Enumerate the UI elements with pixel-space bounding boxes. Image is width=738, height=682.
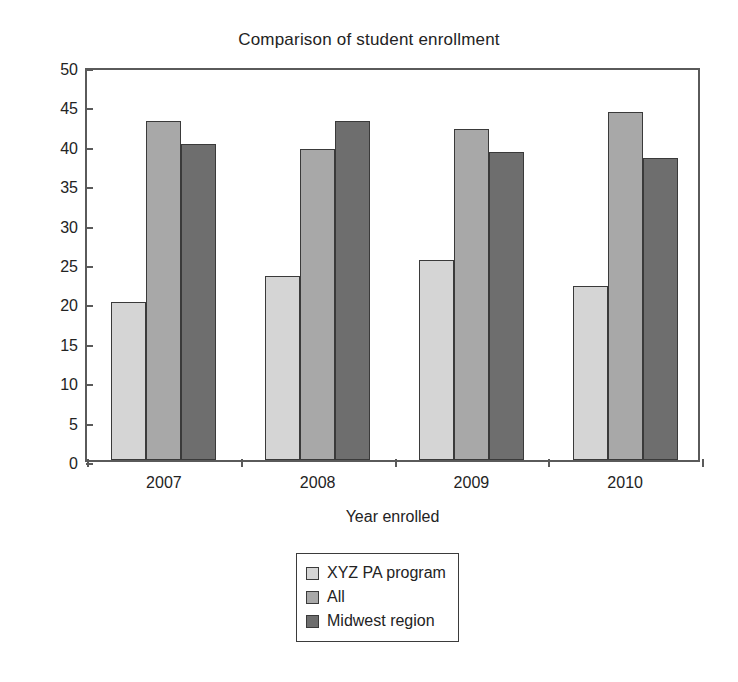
legend-label: All [327, 588, 345, 606]
y-tick-text: 10 [60, 376, 78, 393]
y-tick-mark [86, 266, 93, 268]
y-tick-text: 45 [60, 100, 78, 117]
bar-2007-xyz-pa-program [111, 302, 146, 460]
y-tick-mark [86, 345, 93, 347]
bar-2007-all [146, 121, 181, 460]
y-tick-mark [86, 227, 93, 229]
y-tick-text: 15 [60, 337, 78, 354]
y-tick-text: 20 [60, 297, 78, 314]
legend-item-midwest-region[interactable]: Midwest region [306, 609, 446, 633]
chart-title: Comparison of student enrollment [0, 30, 738, 50]
y-axis-tick-label: 20 [60, 297, 87, 315]
bar-group [111, 70, 216, 460]
bar-2008-all [300, 149, 335, 460]
y-axis-tick-label: 40 [60, 140, 87, 158]
x-axis-label: Year enrolled [85, 508, 700, 526]
x-axis-tick-label-2007: 2007 [146, 474, 182, 492]
y-axis-tick-label: 0 [69, 455, 87, 473]
y-axis-tick-label: 25 [60, 258, 87, 276]
legend-item-xyz-pa-program[interactable]: XYZ PA program [306, 561, 446, 585]
y-tick-text: 50 [60, 61, 78, 78]
y-tick-text: 30 [60, 219, 78, 236]
x-axis-tick-mark [87, 459, 89, 467]
bar-series-container [87, 70, 698, 460]
plot-area: 051015202530354045502007200820092010 [85, 68, 700, 462]
bar-group [419, 70, 524, 460]
y-tick-mark [86, 187, 93, 189]
y-tick-text: 35 [60, 179, 78, 196]
y-tick-text: 25 [60, 258, 78, 275]
x-axis-tick-mark [241, 459, 243, 467]
x-axis-tick-mark [702, 459, 704, 467]
legend-swatch-icon [306, 567, 319, 580]
y-tick-text: 40 [60, 140, 78, 157]
y-tick-mark [86, 384, 93, 386]
y-tick-mark [86, 148, 93, 150]
y-axis-tick-label: 35 [60, 179, 87, 197]
y-axis-tick-label: 45 [60, 100, 87, 118]
x-axis-tick-mark [548, 459, 550, 467]
y-tick-mark [86, 424, 93, 426]
y-axis-tick-label: 50 [60, 61, 87, 79]
legend-label: XYZ PA program [327, 564, 446, 582]
bar-2009-midwest-region [489, 152, 524, 460]
y-axis-tick-label: 10 [60, 376, 87, 394]
x-axis-tick-mark [395, 459, 397, 467]
legend-label: Midwest region [327, 612, 435, 630]
bar-2009-all [454, 129, 489, 460]
bar-2010-midwest-region [643, 158, 678, 460]
y-tick-text: 0 [69, 455, 78, 472]
y-axis-tick-label: 30 [60, 219, 87, 237]
bar-group [265, 70, 370, 460]
legend-swatch-icon [306, 591, 319, 604]
y-axis-tick-label: 5 [69, 416, 87, 434]
legend-swatch-icon [306, 615, 319, 628]
x-axis-tick-label-2009: 2009 [454, 474, 490, 492]
legend-item-all[interactable]: All [306, 585, 446, 609]
y-tick-mark [86, 305, 93, 307]
y-tick-mark [86, 108, 93, 110]
bar-group [573, 70, 678, 460]
bar-2008-xyz-pa-program [265, 276, 300, 460]
chart-figure: Comparison of student enrollment 0510152… [0, 0, 738, 682]
bar-2010-xyz-pa-program [573, 286, 608, 460]
bar-2008-midwest-region [335, 121, 370, 460]
chart-legend: XYZ PA programAllMidwest region [296, 553, 459, 642]
bar-2010-all [608, 112, 643, 460]
bar-2007-midwest-region [181, 144, 216, 460]
y-tick-mark [86, 69, 93, 71]
y-axis-tick-label: 15 [60, 337, 87, 355]
y-tick-text: 5 [69, 416, 78, 433]
x-axis-tick-label-2010: 2010 [607, 474, 643, 492]
x-axis-tick-label-2008: 2008 [300, 474, 336, 492]
bar-2009-xyz-pa-program [419, 260, 454, 460]
